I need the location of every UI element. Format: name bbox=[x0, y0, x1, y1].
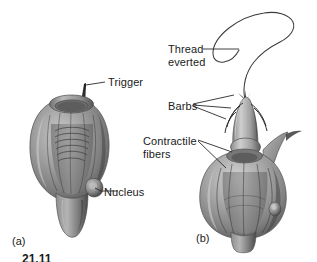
panel-tag-a: (a) bbox=[12, 235, 25, 247]
figure-nematocyst-diagram: Trigger Nucleus Threadeverted Barbs Cont… bbox=[0, 0, 317, 262]
leader-barbs-1 bbox=[193, 95, 234, 104]
label-contractile-line2: fibers bbox=[143, 148, 171, 160]
label-thread-line2: everted bbox=[168, 56, 205, 68]
leader-barbs-2 bbox=[193, 106, 226, 119]
organism-a-undischarged bbox=[30, 82, 118, 237]
figure-artwork bbox=[0, 0, 317, 262]
panel-tag-b: (b) bbox=[196, 232, 209, 244]
leader-barbs-3 bbox=[193, 105, 231, 108]
capsule-tail-a bbox=[56, 193, 88, 237]
label-thread-line1: Thread bbox=[168, 43, 203, 55]
label-contractile-fibers: Contractilefibers bbox=[143, 135, 197, 160]
organism-b-discharged bbox=[193, 12, 302, 252]
label-trigger: Trigger bbox=[108, 76, 143, 89]
label-contractile-line1: Contractile bbox=[143, 135, 197, 147]
label-barbs: Barbs bbox=[168, 100, 197, 113]
label-nucleus: Nucleus bbox=[104, 186, 144, 199]
leader-trigger bbox=[86, 82, 105, 85]
figure-caption-partial: 21.11 bbox=[22, 252, 51, 262]
label-thread-everted: Threadeverted bbox=[168, 43, 205, 68]
everted-thread bbox=[213, 12, 294, 100]
